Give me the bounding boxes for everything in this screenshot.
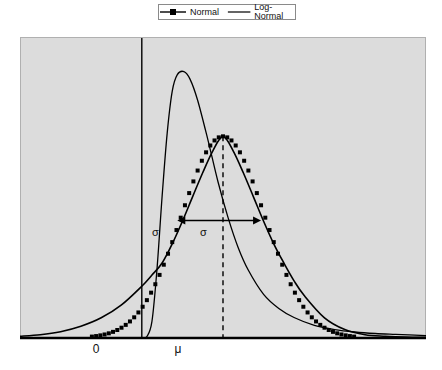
normal-marker [124,323,128,327]
sigma-label-right: σ [200,227,207,238]
normal-marker [225,135,229,139]
normal-marker [238,150,242,154]
normal-marker [132,315,136,319]
normal-marker [107,331,111,335]
normal-marker [234,143,238,147]
normal-marker [204,150,208,154]
normal-marker [280,263,284,267]
normal-marker [306,310,310,314]
normal-marker [183,203,187,207]
normal-marker [335,331,339,335]
normal-marker [268,228,272,232]
sigma-arrow-annotation [177,217,261,225]
normal-marker [196,169,200,173]
normal-marker [242,159,246,163]
normal-marker [115,328,119,332]
normal-marker [318,323,322,327]
normal-marker [136,310,140,314]
normal-marker [158,273,162,277]
normal-marker [276,252,280,256]
normal-marker [251,179,255,183]
plot-canvas [0,0,442,370]
normal-marker [153,282,157,286]
normal-marker [284,273,288,277]
reference-lines-layer [142,38,223,338]
normal-marker [246,169,250,173]
normal-marker [255,191,259,195]
normal-marker [187,191,191,195]
normal-marker [149,291,153,295]
x-tick-label-zero: 0 [88,343,104,355]
normal-marker [327,328,331,332]
chart-figure: Normal Log-Normal σ σ 0 μ [0,0,442,370]
normal-marker [229,138,233,142]
sigma-label-left: σ [152,227,159,238]
normal-marker [272,240,276,244]
normal-marker [259,203,263,207]
sigma-arrowhead-right [253,217,261,225]
normal-marker [174,228,178,232]
normal-marker [339,332,343,336]
normal-marker [103,332,107,336]
normal-marker [200,159,204,163]
normal-marker [111,330,115,334]
normal-marker [289,282,293,286]
normal-marker [162,263,166,267]
normal-marker [263,216,267,220]
normal-marker [208,143,212,147]
normal-marker [297,298,301,302]
normal-marker [98,333,102,337]
normal-marker [293,291,297,295]
normal-marker [323,326,327,330]
normal-marker [213,138,217,142]
normal-marker [166,252,170,256]
normal-marker [344,333,348,337]
normal-marker [301,305,305,309]
x-tick-label-mu: μ [170,343,186,355]
normal-marker [120,326,124,330]
normal-marker [314,319,318,323]
normal-marker [170,240,174,244]
normal-marker [145,298,149,302]
normal-marker [128,319,132,323]
normal-marker [191,179,195,183]
normal-marker [310,315,314,319]
normal-marker [217,135,221,139]
normal-marker [331,330,335,334]
